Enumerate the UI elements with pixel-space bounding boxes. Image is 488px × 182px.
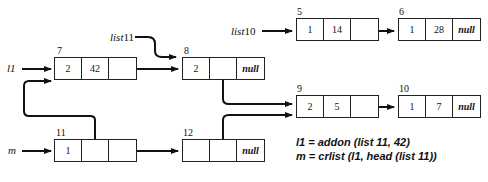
node-cell-data [183, 140, 210, 161]
variable-l1: l1 [7, 62, 16, 74]
node-cell-data: 2 [183, 58, 210, 79]
node-cell-value: 28 [426, 19, 453, 40]
variable-m: m [8, 144, 16, 156]
node-cell-next-null: null [453, 96, 480, 117]
node-address-11: 11 [56, 127, 66, 138]
list-node-12: null [182, 139, 265, 162]
node-cell-value [210, 58, 237, 79]
node-cell-data: 1 [55, 140, 82, 161]
node-cell-next [351, 19, 378, 40]
node-address-5: 5 [297, 6, 302, 17]
node-address-10: 10 [399, 83, 409, 94]
equation-m: m = crlist (l1, head (list 11)) [296, 150, 437, 162]
node-cell-next [351, 96, 378, 117]
node-address-12: 12 [183, 127, 193, 138]
node-cell-value: 7 [426, 96, 453, 117]
node-cell-next [109, 140, 136, 161]
node-address-7: 7 [57, 45, 62, 56]
node-cell-value: 5 [324, 96, 351, 117]
variable-list11: list11 [110, 31, 134, 43]
list-node-7: 2 42 [54, 57, 137, 80]
list-node-6: 1 28 null [398, 18, 481, 41]
node-cell-data: 1 [399, 19, 426, 40]
node-cell-value [82, 140, 109, 161]
node-cell-data: 2 [55, 58, 82, 79]
node-address-9: 9 [297, 83, 302, 94]
node-cell-value: 14 [324, 19, 351, 40]
arrow-list11-to-8 [135, 37, 176, 57]
node-cell-next-null: null [453, 19, 480, 40]
equation-l1: l1 = addon (list 11, 42) [296, 136, 410, 148]
list-node-10: 1 7 null [398, 95, 481, 118]
node-address-8: 8 [184, 45, 189, 56]
list-node-8: 2 null [182, 57, 265, 80]
list-node-5: 1 14 [296, 18, 379, 41]
node-cell-data: 1 [399, 96, 426, 117]
node-cell-value [210, 140, 237, 161]
node-cell-data: 2 [297, 96, 324, 117]
list-node-11: 1 [54, 139, 137, 162]
node-cell-data: 1 [297, 19, 324, 40]
node-address-6: 6 [399, 6, 404, 17]
node-cell-next-null: null [237, 58, 264, 79]
variable-list10: list10 [231, 25, 255, 37]
node-cell-next-null: null [237, 140, 264, 161]
node-cell-value: 42 [82, 58, 109, 79]
node-cell-next [109, 58, 136, 79]
list-node-9: 2 5 [296, 95, 379, 118]
